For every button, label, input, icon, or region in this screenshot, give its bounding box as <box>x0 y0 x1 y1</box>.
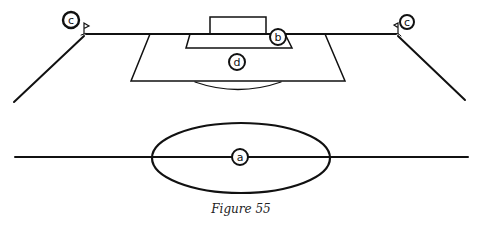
svg-text:a: a <box>237 151 244 164</box>
penalty-arc <box>195 82 281 90</box>
left-corner-flag <box>81 23 90 35</box>
goal-frame <box>210 17 266 34</box>
svg-text:d: d <box>234 56 241 69</box>
figure-caption: Figure 55 <box>210 202 271 216</box>
svg-text:b: b <box>275 31 282 44</box>
label-a: a <box>232 149 248 165</box>
svg-text:c: c <box>68 14 74 27</box>
left-touchline <box>14 36 84 102</box>
label-d: d <box>229 54 245 70</box>
field-diagram: c c b d a Figure 55 <box>0 0 483 227</box>
right-touchline <box>398 36 465 100</box>
svg-text:c: c <box>404 16 410 29</box>
label-c-right: c <box>400 15 414 29</box>
label-c-left: c <box>63 12 79 28</box>
label-b: b <box>270 29 286 45</box>
